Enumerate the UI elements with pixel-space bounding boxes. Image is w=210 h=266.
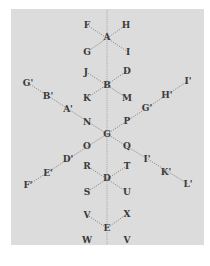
node-label-B: B <box>103 80 111 90</box>
node-label-Ip: I' <box>185 76 192 86</box>
node-label-G: G <box>103 129 111 139</box>
node-label-Dp: D' <box>63 154 74 164</box>
node-label-R: R <box>83 161 91 171</box>
node-label-J: J <box>83 67 88 77</box>
node-label-Fp: F' <box>23 180 32 190</box>
node-label-E: E <box>104 223 111 233</box>
node-label-D1: D <box>123 66 131 76</box>
node-label-S: S <box>84 187 91 197</box>
node-label-D: D <box>103 173 111 183</box>
node-label-Kp: K' <box>161 167 172 177</box>
node-label-P: P <box>124 116 131 126</box>
edges <box>28 25 188 228</box>
node-label-M: M <box>122 93 132 103</box>
node-label-O: O <box>83 141 91 151</box>
node-label-Ep: E' <box>43 168 53 178</box>
node-label-V1: V <box>83 210 92 220</box>
node-label-X: X <box>124 209 131 219</box>
node-label-V2: V <box>123 235 132 245</box>
node-label-K: K <box>83 93 92 103</box>
lattice-diagram: AFHGIBJDKMG'B'A'NGPG'H'I'OD'E'F'QI'K'L'D… <box>0 0 210 266</box>
node-label-N: N <box>83 117 91 127</box>
node-label-Q: Q <box>123 141 131 151</box>
node-label-A: A <box>103 32 112 42</box>
node-label-Hp: H' <box>161 90 172 100</box>
node-label-Bp: B' <box>43 91 53 101</box>
node-label-F: F <box>84 20 91 30</box>
node-label-H: H <box>122 20 131 30</box>
node-label-T: T <box>124 161 131 171</box>
node-label-Ap: A' <box>62 104 73 114</box>
node-label-U: U <box>123 187 131 197</box>
node-label-Gp2: G' <box>142 103 152 113</box>
node-label-I1: I <box>126 47 130 57</box>
node-label-Gp: G' <box>23 78 33 88</box>
node-labels: AFHGIBJDKMG'B'A'NGPG'H'I'OD'E'F'QI'K'L'D… <box>23 20 193 245</box>
node-label-G1: G <box>83 47 91 57</box>
node-label-W: W <box>81 235 93 245</box>
node-label-Lp: L' <box>183 179 192 189</box>
node-label-Ip2: I' <box>144 154 151 164</box>
